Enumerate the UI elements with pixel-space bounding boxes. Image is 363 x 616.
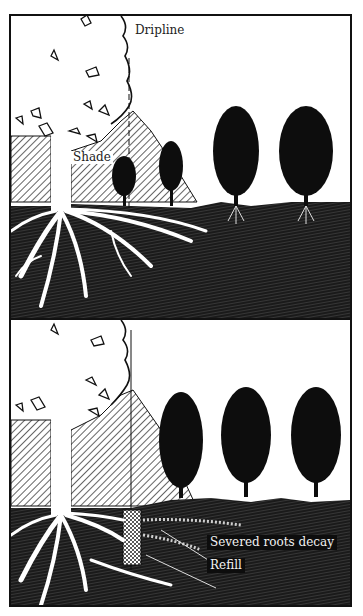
label-severed-roots-decay: Severed roots decay — [207, 535, 337, 550]
label-refill: Refill — [207, 558, 245, 573]
label-dripline: Dripline — [135, 24, 184, 37]
illustration-before — [11, 16, 350, 318]
panel-after-trenching: Severed roots decay Refill — [9, 318, 352, 607]
illustration-after — [11, 320, 350, 605]
label-shade: Shade — [71, 151, 113, 164]
panel-before-trenching: Dripline Shade — [9, 14, 352, 320]
